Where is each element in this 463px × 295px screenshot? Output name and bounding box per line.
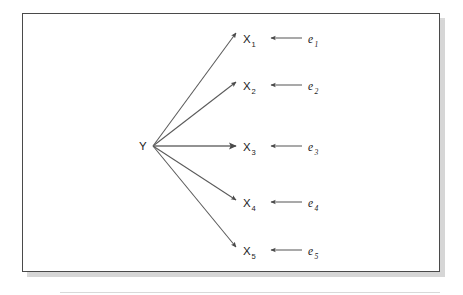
error-node-e5: e	[308, 245, 313, 257]
path-diagram-figure: Y X 1 X 2 X 3 X 4 X 5 e 1 e 2 e 3 e 4 e …	[0, 0, 463, 295]
indicator-subscript-x4: 4	[252, 204, 256, 213]
indicator-node-x5: X	[243, 245, 251, 257]
latent-node-y: Y	[139, 140, 147, 152]
error-subscript-e3: 3	[314, 148, 319, 157]
error-node-e4: e	[308, 197, 313, 209]
error-subscript-e4: 4	[315, 204, 319, 213]
indicator-subscript-x1: 1	[252, 40, 256, 49]
diagram-panel	[23, 14, 440, 272]
error-node-e3: e	[308, 141, 313, 153]
indicator-node-x3: X	[243, 141, 251, 153]
indicator-subscript-x2: 2	[252, 87, 256, 96]
error-subscript-e2: 2	[315, 87, 319, 96]
error-subscript-e1: 1	[315, 40, 319, 49]
error-subscript-e5: 5	[315, 252, 319, 261]
diagram-canvas: Y X 1 X 2 X 3 X 4 X 5 e 1 e 2 e 3 e 4 e …	[0, 0, 463, 295]
indicator-node-x1: X	[243, 33, 251, 45]
indicator-subscript-x5: 5	[252, 252, 256, 261]
indicator-node-x2: X	[243, 80, 251, 92]
indicator-node-x4: X	[243, 197, 251, 209]
indicator-subscript-x3: 3	[252, 148, 256, 157]
error-node-e2: e	[308, 80, 313, 92]
error-node-e1: e	[308, 33, 313, 45]
